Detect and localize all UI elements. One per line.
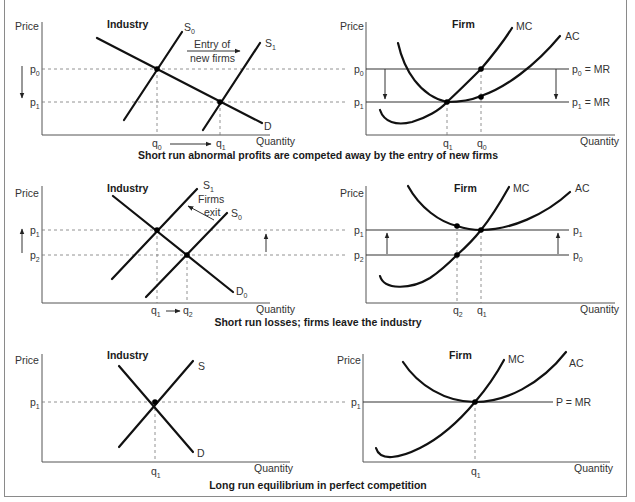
y-axis-label: Price xyxy=(15,187,39,199)
ac-curve xyxy=(408,186,570,230)
price-label-p1: p1 xyxy=(30,224,40,238)
curve-label-D: D xyxy=(197,447,205,459)
firm-graph-1: Price Firm Quantity p0 p1 MC AC p0 = MR … xyxy=(340,18,620,151)
annotation-entry-line1: Entry of xyxy=(194,38,230,50)
panel-entry: Price Industry Quantity p0 p1 S0 S1 D En… xyxy=(15,18,620,161)
x-axis-label: Quantity xyxy=(580,303,620,315)
y-axis-label: Price xyxy=(15,20,39,32)
curve-label-S: S xyxy=(198,360,205,372)
demand-curve-D xyxy=(119,366,193,452)
x-axis-label: Quantity xyxy=(574,462,614,474)
price-label-p1: p1 xyxy=(351,396,361,410)
price-label-p1: p1 xyxy=(30,96,40,110)
equilibrium-point xyxy=(472,399,478,405)
ac-curve xyxy=(403,352,566,402)
firm-graph-3: Price Firm Quantity p1 MC AC P = MR q1 xyxy=(337,349,614,479)
caption: Long run equilibrium in perfect competit… xyxy=(209,479,427,491)
curve-label-D: D xyxy=(264,120,272,132)
firm-graph-2: Price Firm Quantity p1 p2 MC AC p1 p0 q2… xyxy=(340,182,620,318)
price-label-p2: p2 xyxy=(30,249,40,263)
quantity-label-q1: q1 xyxy=(477,304,487,318)
curve-label-MC: MC xyxy=(508,353,525,365)
quantity-label-q2: q2 xyxy=(453,304,463,318)
point-q2-p2 xyxy=(454,252,460,258)
supply-curve-S0 xyxy=(124,32,182,120)
x-axis-label: Quantity xyxy=(580,135,620,147)
point-q1-p1 xyxy=(478,227,484,233)
axes xyxy=(366,186,615,303)
price-label-p1: p1 xyxy=(354,96,364,110)
label-p0-mr: p0 = MR xyxy=(572,63,610,77)
label-p-mr: P = MR xyxy=(556,396,592,408)
firm-title: Firm xyxy=(454,182,477,194)
industry-title: Industry xyxy=(107,18,149,30)
label-p1-right: p1 xyxy=(573,224,583,238)
curve-label-S0: S0 xyxy=(184,21,195,35)
price-label-p0: p0 xyxy=(354,63,364,77)
quantity-label-q1: q1 xyxy=(471,465,481,479)
industry-title: Industry xyxy=(107,349,149,361)
supply-curve-S1 xyxy=(112,189,197,279)
y-axis-label: Price xyxy=(15,354,39,366)
equilibrium-point-0 xyxy=(154,66,160,72)
price-label-p1: p1 xyxy=(354,224,364,238)
curve-label-D0: D0 xyxy=(236,285,248,299)
mc-curve xyxy=(380,187,509,287)
point-q2-ac xyxy=(454,223,460,229)
x-axis-label: Quantity xyxy=(254,462,294,474)
x-axis-label: Quantity xyxy=(256,135,296,147)
equilibrium-point-1 xyxy=(154,227,160,233)
caption: Short run losses; firms leave the indust… xyxy=(214,316,421,328)
curve-label-S1: S1 xyxy=(265,37,276,51)
y-axis-label: Price xyxy=(340,20,364,32)
price-label-p0: p0 xyxy=(30,63,40,77)
price-label-p1: p1 xyxy=(30,396,40,410)
axes xyxy=(363,354,610,462)
equilibrium-point-0 xyxy=(184,252,190,258)
industry-graph-3: Price Industry Quantity p1 S D q1 xyxy=(15,349,348,479)
panel-exit: Price Industry Quantity p1 p2 S1 Firms e… xyxy=(15,179,620,328)
firm-title: Firm xyxy=(452,18,475,30)
equilibrium-point xyxy=(152,399,158,405)
curve-label-AC: AC xyxy=(575,182,590,194)
firm-title: Firm xyxy=(449,349,472,361)
curve-label-AC: AC xyxy=(565,30,580,42)
mc-curve xyxy=(380,28,512,124)
quantity-label-q1: q1 xyxy=(151,304,161,318)
industry-graph-1: Price Industry Quantity p0 p1 S0 S1 D En… xyxy=(15,18,348,151)
annotation-exit-line1: Firms xyxy=(198,193,224,205)
axes xyxy=(42,354,290,462)
annotation-entry-line2: new firms xyxy=(190,52,235,64)
point-q1-p1 xyxy=(444,99,450,105)
y-axis-label: Price xyxy=(340,187,364,199)
industry-title: Industry xyxy=(107,182,149,194)
y-axis-label: Price xyxy=(337,354,361,366)
perfect-competition-diagram: Price Industry Quantity p0 p1 S0 S1 D En… xyxy=(0,0,635,502)
curve-label-MC: MC xyxy=(513,182,530,194)
curve-label-S0: S0 xyxy=(231,207,242,221)
curve-label-S1: S1 xyxy=(203,179,214,193)
caption: Short run abnormal profits are competed … xyxy=(138,149,498,161)
quantity-label-q2: q2 xyxy=(183,304,193,318)
panel-long-run: Price Industry Quantity p1 S D q1 Price … xyxy=(15,349,614,491)
curve-label-AC: AC xyxy=(569,357,584,369)
point-q0-ac xyxy=(478,94,484,100)
equilibrium-point-1 xyxy=(217,99,223,105)
industry-graph-2: Price Industry Quantity p1 p2 S1 Firms e… xyxy=(15,179,348,318)
mc-curve xyxy=(376,360,504,457)
price-label-p2: p2 xyxy=(354,249,364,263)
curve-label-MC: MC xyxy=(516,20,533,32)
x-axis-label: Quantity xyxy=(256,303,296,315)
label-p0-right: p0 xyxy=(573,249,583,263)
point-q0-p0 xyxy=(478,66,484,72)
label-p1-mr: p1 = MR xyxy=(572,96,610,110)
quantity-label-q1: q1 xyxy=(151,465,161,479)
